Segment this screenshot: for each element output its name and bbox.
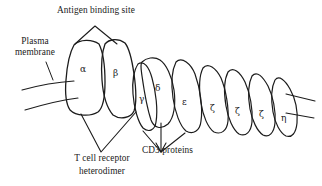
tcr-complex-figure: Antigen binding site Plasma membrane T c… (0, 0, 322, 186)
subunit-shape-alpha (66, 40, 105, 115)
subunit-label-zeta3: ζ (259, 109, 264, 119)
subunit-shape-zeta2 (225, 70, 253, 135)
cd3-proteins-label: CD3 proteins (142, 145, 193, 156)
tcr-heterodimer-label-line1: T cell receptor (58, 153, 146, 164)
subunit-label-zeta2: ζ (235, 106, 240, 116)
membrane-leader-line (46, 62, 53, 80)
membrane-upper-right-line (286, 94, 315, 101)
subunit-shape-zeta1 (200, 66, 229, 133)
subunit-label-beta: β (113, 68, 118, 78)
subunit-label-gamma: γ (139, 94, 144, 104)
subunit-shape-eta (272, 78, 298, 136)
plasma-membrane-label-line1: Plasma (6, 36, 64, 47)
subunit-label-delta: δ (155, 83, 160, 93)
subunit-shape-zeta3 (249, 74, 276, 136)
plasma-membrane-lines (22, 62, 78, 110)
subunit-label-eta: η (281, 113, 286, 123)
plasma-membrane-label-line2: membrane (3, 47, 67, 58)
membrane-lower-right-line (286, 113, 314, 118)
membrane-lower-left-line (25, 98, 78, 110)
diagram-canvas (0, 0, 322, 186)
tcr-heterodimer-label-line2: heterodimer (58, 166, 146, 177)
tcr-heterodimer-pointer (81, 112, 136, 152)
subunit-label-epsilon: ε (182, 97, 187, 107)
plasma-membrane-right-lines (286, 94, 315, 118)
subunit-label-zeta1: ζ (210, 103, 215, 113)
antigen-binding-site-label: Antigen binding site (57, 5, 135, 16)
subunit-label-alpha: α (80, 64, 86, 74)
subunit-shape-beta (102, 40, 136, 118)
